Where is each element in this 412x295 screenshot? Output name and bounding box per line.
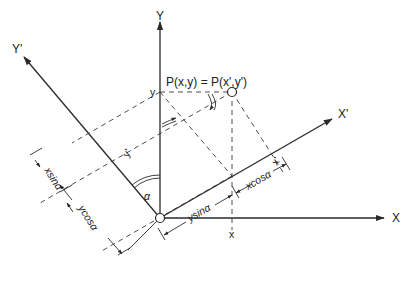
rotation-arrow-1 — [208, 94, 212, 110]
xcos-label: xcosα — [242, 167, 274, 192]
y-axis-label: Y — [156, 9, 164, 23]
dim-tick-xsin-top — [30, 148, 42, 155]
rotation-arrow-1b — [212, 94, 216, 110]
point-p-label: P(x,y) = P(x',y') — [166, 75, 247, 89]
origin-marker — [156, 214, 165, 223]
ysin-arrow-right — [215, 195, 232, 205]
x-prime-axis — [160, 119, 332, 218]
xsin-arrow-bottom — [67, 203, 73, 212]
y-prime-axis-label: Y' — [12, 42, 22, 56]
ysin-arrow-left — [164, 222, 186, 235]
dim-tick-end — [282, 157, 290, 170]
angle-arc — [134, 178, 160, 188]
x-prime-axis-label: X' — [338, 107, 348, 121]
y-tick-label: y — [150, 86, 156, 98]
ycos-label: ycosα — [76, 202, 102, 233]
x-axis-label: X — [392, 211, 400, 225]
rotation-arrow-2 — [162, 118, 176, 124]
xsin-arrow-top — [35, 160, 40, 167]
y-to-x-prime-line — [160, 92, 232, 176]
ysin-label: ysinα — [184, 201, 213, 225]
y-prime-tick-label: y' — [119, 147, 133, 159]
angle-alpha-label: α — [144, 190, 151, 202]
y-to-y-prime-line — [72, 92, 160, 143]
y-prime-axis — [24, 57, 160, 218]
y-prime-extension — [128, 218, 160, 250]
x-to-y-prime-line — [100, 176, 232, 252]
x-prime-tick-label: x' — [268, 155, 282, 167]
x-tick-label: x — [229, 228, 235, 240]
rotation-diagram: Y X X' Y' P(x,y) = P(x',y') y x x' y' α … — [0, 0, 412, 295]
dim-tick-origin — [158, 228, 165, 240]
angle-arc-outer — [132, 175, 160, 185]
